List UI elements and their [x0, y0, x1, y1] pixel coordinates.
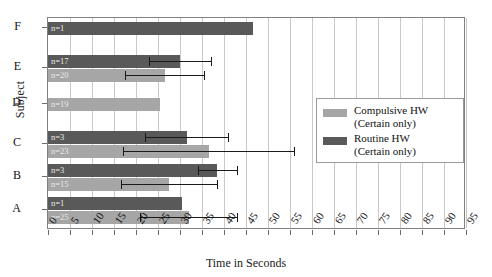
- error-bar-cap-left: [145, 133, 146, 142]
- legend-label-routine: Routine HW (Certain only): [354, 132, 416, 157]
- error-bar-cap-left: [198, 166, 199, 175]
- x-axis-tick: [136, 230, 137, 235]
- error-bar-line: [121, 184, 218, 185]
- bar-D-compulsive: n=19: [48, 98, 160, 111]
- error-bar-line: [149, 61, 211, 62]
- gridline: [466, 18, 467, 228]
- error-bar-cap-left: [121, 180, 122, 189]
- x-axis-tick: [202, 230, 203, 235]
- legend-swatch-compulsive: [323, 109, 347, 117]
- x-axis-tick: [334, 230, 335, 235]
- error-bar-cap-left: [149, 57, 150, 66]
- x-axis-tick: [70, 230, 71, 235]
- gridline: [312, 18, 313, 228]
- gridline: [290, 18, 291, 228]
- legend: Compulsive HW (Certain only) Routine HW …: [316, 98, 464, 163]
- y-axis-label-B: B: [1, 168, 21, 183]
- error-bar-cap-left: [123, 147, 124, 156]
- error-bar-cap-left: [125, 71, 126, 80]
- legend-label-compulsive-line1: Compulsive HW: [354, 104, 428, 117]
- x-axis-title: Time in Seconds: [0, 256, 492, 271]
- error-bar-cap-right: [211, 57, 212, 66]
- legend-label-compulsive: Compulsive HW (Certain only): [354, 104, 428, 129]
- gridline: [268, 18, 269, 228]
- gridline: [202, 18, 203, 228]
- legend-item-routine: Routine HW (Certain only): [323, 132, 459, 157]
- error-bar-cap-right: [204, 71, 205, 80]
- error-bar-cap-right: [228, 133, 229, 142]
- bar-n-label: n=1: [51, 22, 64, 35]
- legend-swatch-routine: [323, 137, 347, 145]
- x-axis-tick: [312, 230, 313, 235]
- x-axis-tick: [92, 230, 93, 235]
- gridline: [246, 18, 247, 228]
- bar-n-label: n=19: [51, 98, 69, 111]
- x-axis-tick: [268, 230, 269, 235]
- gridline: [224, 18, 225, 228]
- y-axis-label-E: E: [1, 59, 21, 74]
- x-axis-tick: [422, 230, 423, 235]
- error-bar-cap-right: [294, 147, 295, 156]
- error-bar: [48, 178, 466, 191]
- x-axis-tick: [466, 230, 467, 235]
- bar-A-routine: n=1: [48, 197, 182, 210]
- error-bar: [48, 69, 466, 82]
- y-axis-label-D: D: [1, 95, 21, 110]
- error-bar: [48, 55, 466, 68]
- bar-n-label: n=1: [51, 197, 64, 210]
- legend-label-routine-line1: Routine HW: [354, 132, 416, 145]
- x-axis-tick: [158, 230, 159, 235]
- y-axis-label-C: C: [1, 135, 21, 150]
- error-bar-line: [198, 170, 238, 171]
- bar-chart: Subject Time in Seconds FEDCBA n=1n=17n=…: [0, 0, 492, 277]
- error-bar-line: [125, 75, 204, 76]
- bar-F-routine: n=1: [48, 22, 253, 35]
- x-axis-tick: [400, 230, 401, 235]
- y-axis-label-A: A: [1, 201, 21, 216]
- x-axis-tick: [378, 230, 379, 235]
- x-axis-tick: [224, 230, 225, 235]
- y-axis-label-F: F: [1, 19, 21, 34]
- x-axis-tick: [444, 230, 445, 235]
- x-axis-tick: [290, 230, 291, 235]
- x-axis-tick: [114, 230, 115, 235]
- error-bar: [48, 164, 466, 177]
- x-axis-tick: [356, 230, 357, 235]
- error-bar-cap-right: [237, 166, 238, 175]
- legend-label-compulsive-line2: (Certain only): [354, 117, 428, 130]
- x-axis-tick: [246, 230, 247, 235]
- legend-label-routine-line2: (Certain only): [354, 145, 416, 158]
- legend-item-compulsive: Compulsive HW (Certain only): [323, 104, 459, 129]
- x-axis-tick: [48, 230, 49, 235]
- x-axis-tick: [180, 230, 181, 235]
- error-bar-cap-right: [217, 180, 218, 189]
- error-bar-line: [145, 137, 229, 138]
- error-bar-line: [123, 151, 295, 152]
